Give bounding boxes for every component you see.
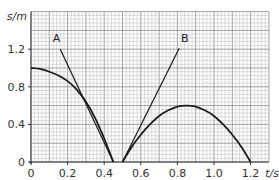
x-tick-label: 0.2 bbox=[59, 167, 77, 180]
x-axis-label: t/s bbox=[265, 167, 279, 180]
series-curve-1 bbox=[31, 68, 113, 162]
y-axis-label: s/m bbox=[7, 10, 27, 23]
x-tick-label: 0 bbox=[28, 167, 35, 180]
series-curve-2 bbox=[123, 106, 251, 162]
annotation-A: A bbox=[53, 32, 61, 45]
series-tangent-B bbox=[123, 48, 180, 162]
y-tick-label: 0.8 bbox=[8, 81, 26, 94]
x-tick-label: 1.2 bbox=[242, 167, 260, 180]
annotation-B: B bbox=[181, 32, 189, 45]
grid bbox=[31, 12, 269, 162]
x-tick-label: 0.8 bbox=[169, 167, 187, 180]
x-tick-label: 1.0 bbox=[205, 167, 223, 180]
y-tick-label: 1.2 bbox=[8, 43, 26, 56]
x-tick-label: 0.4 bbox=[95, 167, 113, 180]
y-tick-label: 0 bbox=[18, 156, 25, 169]
distance-time-chart: 00.20.40.60.81.01.200.40.81.2s/mt/sAB bbox=[0, 0, 279, 180]
y-tick-label: 0.4 bbox=[8, 118, 26, 131]
x-tick-label: 0.6 bbox=[132, 167, 150, 180]
